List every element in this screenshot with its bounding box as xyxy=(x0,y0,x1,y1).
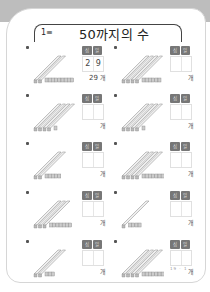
problem-marker xyxy=(114,240,117,243)
ones-header: 일 xyxy=(181,240,191,249)
place-value-header: 십 일 xyxy=(82,94,102,103)
problem-marker xyxy=(114,46,117,49)
ones-answer[interactable] xyxy=(93,251,104,265)
tens-answer[interactable] xyxy=(171,251,181,265)
tens-answer[interactable] xyxy=(171,202,181,216)
base-ten-blocks-icon xyxy=(30,146,76,180)
tens-answer[interactable] xyxy=(83,202,93,216)
problem-marker xyxy=(114,94,117,97)
place-value-header: 십 일 xyxy=(82,46,102,55)
ones-answer[interactable] xyxy=(181,202,192,216)
problem-item: 십 일 개 xyxy=(26,238,116,284)
unit-label: 개 xyxy=(100,219,106,226)
problem-item: 십 일 개 xyxy=(114,44,204,90)
tens-answer[interactable] xyxy=(83,153,93,167)
ones-header: 일 xyxy=(93,142,103,151)
answer-box[interactable] xyxy=(170,56,192,72)
base-ten-blocks-icon xyxy=(118,195,164,229)
base-ten-blocks-icon xyxy=(30,195,76,229)
problem-marker xyxy=(26,191,29,194)
problem-marker xyxy=(26,240,29,243)
tens-header: 십 xyxy=(82,142,92,151)
problem-item: 십 일 개 xyxy=(26,189,116,235)
tens-header: 십 xyxy=(170,46,180,55)
problem-marker xyxy=(26,142,29,145)
ones-answer[interactable] xyxy=(93,202,104,216)
answer-box[interactable] xyxy=(82,201,104,217)
result-field[interactable]: 개 xyxy=(78,168,106,180)
page-number: 19 · 1 xyxy=(170,266,187,271)
problem-item: 십 일 2 9 29개 xyxy=(26,44,116,90)
problem-item: 십 일 개 xyxy=(114,238,204,284)
unit-label: 개 xyxy=(100,268,106,275)
place-value-header: 십 일 xyxy=(170,240,190,249)
unit-label: 개 xyxy=(188,122,194,129)
unit-label: 개 xyxy=(100,122,106,129)
tens-answer[interactable] xyxy=(171,105,181,119)
tens-answer[interactable] xyxy=(83,251,93,265)
answer-box[interactable] xyxy=(82,250,104,266)
base-ten-blocks-icon xyxy=(30,244,76,278)
place-value-header: 십 일 xyxy=(170,191,190,200)
place-value-header: 십 일 xyxy=(170,46,190,55)
tens-answer[interactable] xyxy=(83,105,93,119)
tens-header: 십 xyxy=(82,191,92,200)
unit-label: 개 xyxy=(188,170,194,177)
ones-header: 일 xyxy=(181,94,191,103)
ones-answer[interactable] xyxy=(181,57,192,71)
result-field[interactable]: 개 xyxy=(78,266,106,278)
answer-box[interactable] xyxy=(170,201,192,217)
result-field[interactable]: 개 xyxy=(78,217,106,229)
problem-item: 십 일 개 xyxy=(26,140,116,186)
base-ten-blocks-icon xyxy=(30,50,76,84)
result-field[interactable]: 개 xyxy=(166,120,194,132)
tens-header: 십 xyxy=(82,240,92,249)
answer-box[interactable] xyxy=(82,104,104,120)
tens-header: 십 xyxy=(82,46,92,55)
unit-label: 개 xyxy=(188,74,194,81)
base-ten-blocks-icon xyxy=(118,244,164,278)
tens-header: 십 xyxy=(82,94,92,103)
ones-answer[interactable] xyxy=(181,105,192,119)
place-value-header: 십 일 xyxy=(170,142,190,151)
unit-label: 개 xyxy=(188,268,194,275)
tens-header: 십 xyxy=(170,191,180,200)
problem-marker xyxy=(26,46,29,49)
answer-box[interactable] xyxy=(170,152,192,168)
tens-answer[interactable] xyxy=(171,153,181,167)
tens-answer[interactable] xyxy=(171,57,181,71)
result-value: 29 xyxy=(89,74,98,82)
place-value-header: 십 일 xyxy=(170,94,190,103)
ones-answer[interactable]: 9 xyxy=(93,57,104,71)
ones-header: 일 xyxy=(93,191,103,200)
result-field[interactable]: 29개 xyxy=(78,72,106,84)
result-field[interactable]: 개 xyxy=(78,120,106,132)
result-field[interactable]: 개 xyxy=(166,72,194,84)
answer-box[interactable] xyxy=(82,152,104,168)
ones-answer[interactable] xyxy=(93,105,104,119)
unit-label: 개 xyxy=(100,170,106,177)
ones-answer[interactable] xyxy=(181,153,192,167)
problem-marker xyxy=(26,94,29,97)
base-ten-blocks-icon xyxy=(30,98,76,132)
answer-box[interactable] xyxy=(170,104,192,120)
ones-header: 일 xyxy=(93,46,103,55)
ones-answer[interactable] xyxy=(93,153,104,167)
tens-header: 십 xyxy=(170,142,180,151)
base-ten-blocks-icon xyxy=(118,146,164,180)
answer-box[interactable]: 2 9 xyxy=(82,56,104,72)
answer-box[interactable] xyxy=(170,250,192,266)
problem-item: 십 일 개 xyxy=(114,140,204,186)
ones-answer[interactable] xyxy=(181,251,192,265)
lesson-number: 1≡ xyxy=(41,28,53,37)
base-ten-blocks-icon xyxy=(118,50,164,84)
ones-header: 일 xyxy=(181,142,191,151)
result-field[interactable]: 개 xyxy=(166,168,194,180)
problem-marker xyxy=(114,191,117,194)
ones-header: 일 xyxy=(93,240,103,249)
tens-answer[interactable]: 2 xyxy=(83,57,93,71)
place-value-header: 십 일 xyxy=(82,142,102,151)
result-field[interactable]: 개 xyxy=(166,217,194,229)
tens-header: 십 xyxy=(170,94,180,103)
problem-marker xyxy=(114,142,117,145)
